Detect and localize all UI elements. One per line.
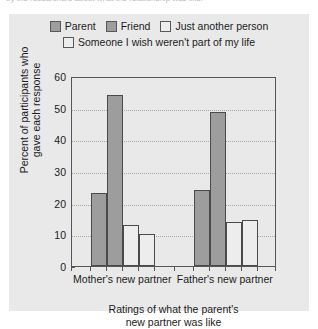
x-tick-mark-1 bbox=[106, 267, 107, 271]
x-tick-mark-12 bbox=[174, 267, 175, 271]
x-axis-label-line2: new partner was like bbox=[126, 316, 222, 328]
legend-label-friend: Friend bbox=[121, 21, 151, 31]
y-tick-label-10: 10 bbox=[44, 230, 66, 240]
caption-strip: by the researchers about what the relati… bbox=[0, 0, 318, 12]
x-tick-mark-6 bbox=[209, 267, 210, 271]
plot-area bbox=[71, 77, 276, 267]
bar-1-1 bbox=[210, 112, 226, 266]
legend-label-just-another-person: Just another person bbox=[175, 21, 268, 31]
legend-entry-parent: Parent bbox=[50, 21, 96, 32]
legend-entry-just-another-person: Just another person bbox=[160, 21, 268, 32]
legend-entry-someone-i-wish: Someone I wish weren't part of my life bbox=[63, 37, 255, 48]
bar-1-3 bbox=[242, 220, 258, 266]
chart-legend: Parent Friend Just another person Someon… bbox=[9, 18, 309, 50]
y-tick-label-0: 0 bbox=[44, 262, 66, 272]
x-tick-mark-0 bbox=[90, 267, 91, 271]
x-tick-mark-2 bbox=[122, 267, 123, 271]
legend-label-parent: Parent bbox=[65, 21, 96, 31]
y-tick-label-40: 40 bbox=[44, 135, 66, 145]
x-tick-mark-3 bbox=[138, 267, 139, 271]
bar-0-3 bbox=[139, 234, 155, 266]
x-axis-label-line1: Ratings of what the parent's bbox=[109, 303, 239, 315]
y-tick-label-60: 60 bbox=[44, 72, 66, 82]
y-tick-label-20: 20 bbox=[44, 199, 66, 209]
chart-figure: Parent Friend Just another person Someon… bbox=[9, 14, 309, 311]
legend-swatch-someone-i-wish bbox=[63, 37, 74, 48]
bars-container bbox=[72, 78, 275, 266]
x-tick-mark-5 bbox=[193, 267, 194, 271]
x-tick-mark-10 bbox=[71, 267, 72, 271]
legend-row-2: Someone I wish weren't part of my life bbox=[9, 34, 309, 50]
bar-1-0 bbox=[194, 190, 210, 266]
y-axis-label: Percent of participants who gave each re… bbox=[18, 30, 42, 190]
x-tick-mark-8 bbox=[241, 267, 242, 271]
bar-1-2 bbox=[226, 222, 242, 266]
x-axis-zone: Mother's new partnerFather's new partner… bbox=[71, 267, 276, 327]
legend-swatch-parent bbox=[50, 21, 61, 32]
legend-row-1: Parent Friend Just another person bbox=[9, 18, 309, 34]
x-group-label-1: Father's new partner bbox=[165, 273, 285, 285]
x-tick-mark-11 bbox=[275, 267, 276, 271]
legend-swatch-friend bbox=[106, 21, 117, 32]
legend-label-someone-i-wish: Someone I wish weren't part of my life bbox=[78, 37, 255, 47]
x-axis-label: Ratings of what the parent's new partner… bbox=[71, 303, 276, 329]
y-tick-label-30: 30 bbox=[44, 167, 66, 177]
legend-entry-friend: Friend bbox=[106, 21, 151, 32]
y-axis-label-line1: Percent of participants who bbox=[18, 47, 30, 174]
x-tick-mark-4 bbox=[154, 267, 155, 271]
y-axis-label-line2: gave each response bbox=[30, 63, 42, 158]
bar-0-1 bbox=[107, 95, 123, 266]
x-tick-mark-7 bbox=[225, 267, 226, 271]
legend-swatch-just-another-person bbox=[160, 21, 171, 32]
bar-0-0 bbox=[91, 193, 107, 266]
caption-text: by the researchers about what the relati… bbox=[6, 0, 203, 3]
x-tick-mark-9 bbox=[257, 267, 258, 271]
bar-0-2 bbox=[123, 225, 139, 266]
y-tick-label-50: 50 bbox=[44, 104, 66, 114]
